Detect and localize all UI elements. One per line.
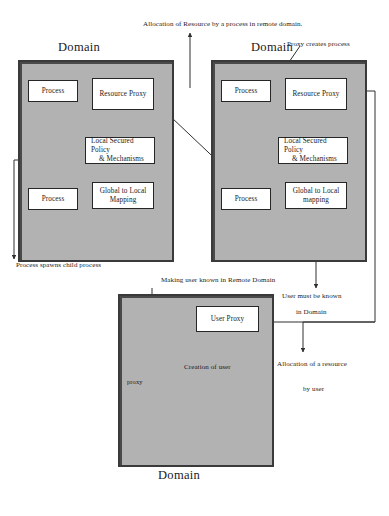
- left-local-secured-policy[interactable]: Local Secured Policy & Mechanisms: [85, 137, 155, 164]
- right-resource-proxy[interactable]: Resource Proxy: [285, 78, 347, 110]
- left-mapping-line1: Global to Local: [100, 187, 147, 196]
- connector-allocation-by-user: [303, 322, 375, 352]
- caption-making-user-known: Making user known in Remote Domain: [161, 276, 275, 285]
- left-policy-line1: Local Secured Policy: [91, 137, 152, 155]
- user-proxy-box[interactable]: User Proxy: [196, 306, 259, 332]
- left-domain-title: Domain: [58, 40, 100, 55]
- diagram-canvas: Domain Process Resource Proxy Local Secu…: [0, 0, 389, 516]
- caption-process-spawns-child: Process spawns child process: [16, 261, 101, 270]
- right-process-bottom[interactable]: Process: [221, 188, 271, 210]
- caption-allocation-by-user-line2: by user: [303, 385, 324, 394]
- right-process-top[interactable]: Process: [221, 80, 271, 102]
- caption-proxy-creates-process: Proxy creates process: [287, 40, 350, 49]
- right-mapping-line2: mapping: [303, 196, 329, 205]
- right-policy-line1: Local Secured Policy: [284, 137, 345, 155]
- caption-user-must-be-known-line1: User must be known: [282, 292, 342, 301]
- left-resource-proxy[interactable]: Resource Proxy: [92, 78, 154, 110]
- left-process-top[interactable]: Process: [28, 80, 78, 102]
- left-global-to-local-mapping[interactable]: Global to Local Mapping: [92, 182, 154, 209]
- left-policy-line2: & Mechanisms: [99, 155, 144, 164]
- right-global-to-local-mapping[interactable]: Global to Local mapping: [285, 182, 347, 209]
- left-mapping-line2: Mapping: [110, 196, 137, 205]
- bottom-domain-title: Domain: [158, 468, 200, 483]
- caption-user-must-be-known-line2: in Domain: [296, 308, 327, 317]
- caption-creation-of-user: Creation of user: [184, 363, 231, 372]
- left-process-bottom[interactable]: Process: [28, 188, 78, 210]
- caption-figure-proxy: proxy: [127, 378, 143, 387]
- right-mapping-line1: Global to Local: [293, 187, 340, 196]
- caption-allocation-remote: Allocation of Resource by a process in r…: [143, 20, 302, 29]
- right-local-secured-policy[interactable]: Local Secured Policy & Mechanisms: [278, 137, 348, 164]
- caption-allocation-by-user-line1: Allocation of a resource: [277, 360, 347, 369]
- right-policy-line2: & Mechanisms: [292, 155, 337, 164]
